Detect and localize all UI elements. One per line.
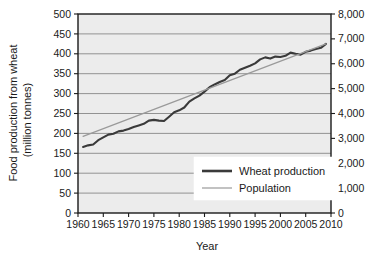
x-axis-tick-label: 1990 xyxy=(218,218,242,230)
y-axis-tick-label: 100 xyxy=(53,167,71,179)
y-axis-right-tick-label: 3,000 xyxy=(338,132,364,144)
y-axis-title: Food production from wheat xyxy=(7,45,19,182)
y-axis-tick-label: 450 xyxy=(53,28,71,40)
y-axis-tick-label: 400 xyxy=(53,47,71,59)
y-axis-right-tick-labels: 01,0002,0003,0004,0005,0006,0007,0008,00… xyxy=(338,8,364,219)
y-axis-tick-label: 300 xyxy=(53,87,71,99)
y-axis-tick-label: 350 xyxy=(53,67,71,79)
y-axis-right-tick-label: 7,000 xyxy=(338,32,364,44)
y-axis-tick-label: 0 xyxy=(65,207,71,219)
y-axis-tick-label: 200 xyxy=(53,127,71,139)
y-axis-right-tick-label: 4,000 xyxy=(338,107,364,119)
y-axis-right-tick-label: 1,000 xyxy=(338,182,364,194)
chart-container: 1960196519701975198019851990199520002005… xyxy=(0,0,391,262)
y-axis-title-units: (million tonnes) xyxy=(21,83,33,158)
x-axis-tick-labels: 1960196519701975198019851990199520002005… xyxy=(66,218,343,230)
x-axis-tick-label: 1960 xyxy=(66,218,90,230)
x-axis-tick-label: 2010 xyxy=(319,218,343,230)
x-axis-tick-label: 1985 xyxy=(193,218,217,230)
legend-label-population: Population xyxy=(239,182,291,194)
y-axis-tick-label: 50 xyxy=(59,187,71,199)
x-axis-tick-label: 1965 xyxy=(92,218,116,230)
x-axis-tick-label: 2000 xyxy=(269,218,293,230)
legend-label-wheat-production: Wheat production xyxy=(239,165,325,177)
chart-legend: Wheat productionPopulation xyxy=(194,157,337,200)
y-axis-tick-label: 150 xyxy=(53,147,71,159)
x-axis-title: Year xyxy=(196,240,219,252)
y-axis-right-tick-label: 8,000 xyxy=(338,8,364,20)
x-axis-tick-label: 2005 xyxy=(294,218,318,230)
x-axis-tick-label: 1970 xyxy=(117,218,141,230)
y-axis-tick-label: 250 xyxy=(53,107,71,119)
y-axis-right-tick-label: 6,000 xyxy=(338,57,364,69)
wheat-production-population-line-chart: 1960196519701975198019851990199520002005… xyxy=(0,0,391,262)
y-axis-tick-label: 500 xyxy=(53,8,71,20)
x-axis-tick-label: 1975 xyxy=(142,218,166,230)
y-axis-right-tick-label: 2,000 xyxy=(338,157,364,169)
y-axis-right-tick-label: 5,000 xyxy=(338,82,364,94)
x-axis-tick-label: 1995 xyxy=(243,218,267,230)
x-axis-tick-label: 1980 xyxy=(168,218,192,230)
y-axis-right-tick-label: 0 xyxy=(338,207,344,219)
